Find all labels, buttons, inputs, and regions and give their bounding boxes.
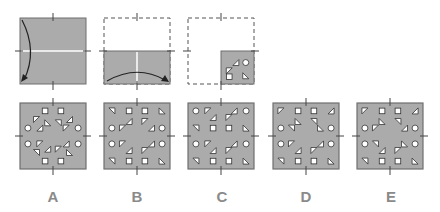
answer-option-d[interactable]	[268, 98, 344, 175]
circle-hole	[193, 141, 199, 147]
circle-hole	[412, 141, 418, 147]
circle-hole	[159, 141, 165, 147]
option-label-e[interactable]: E	[376, 188, 406, 205]
answer-option-c[interactable]	[183, 98, 259, 175]
circle-hole	[362, 125, 368, 131]
circle-hole	[159, 125, 165, 131]
circle-hole	[362, 141, 368, 147]
circle-hole	[109, 141, 115, 147]
square-hole	[126, 108, 132, 114]
circle-hole	[278, 125, 284, 131]
square-hole	[295, 108, 301, 114]
circle-hole	[75, 125, 81, 131]
step-2-fold-vertical	[99, 13, 175, 90]
square-hole	[311, 108, 317, 114]
circle-hole	[278, 141, 284, 147]
circle-hole	[25, 125, 31, 131]
answer-option-b[interactable]	[99, 98, 175, 175]
square-hole	[58, 108, 64, 114]
answer-option-a[interactable]	[15, 98, 91, 175]
square-hole	[210, 125, 216, 131]
option-label-d[interactable]: D	[291, 188, 321, 205]
circle-hole	[243, 60, 249, 66]
circle-hole	[412, 125, 418, 131]
square-hole	[226, 125, 232, 131]
square-hole	[226, 74, 232, 80]
square-hole	[295, 158, 301, 164]
square-hole	[379, 108, 385, 114]
circle-hole	[193, 108, 199, 114]
square-hole	[42, 108, 48, 114]
square-hole	[142, 108, 148, 114]
square-hole	[126, 158, 132, 164]
answer-option-e[interactable]	[352, 98, 428, 175]
square-hole	[58, 158, 64, 164]
square-hole	[311, 158, 317, 164]
paper-folding-diagram	[0, 0, 440, 212]
option-label-a[interactable]: A	[38, 188, 68, 205]
square-hole	[395, 108, 401, 114]
circle-hole	[328, 141, 334, 147]
square-hole	[142, 158, 148, 164]
circle-hole	[75, 141, 81, 147]
step-3-punched-quarter	[183, 13, 259, 90]
circle-hole	[243, 108, 249, 114]
option-label-c[interactable]: C	[207, 188, 237, 205]
option-label-b[interactable]: B	[122, 188, 152, 205]
square-hole	[210, 158, 216, 164]
square-hole	[42, 158, 48, 164]
circle-hole	[243, 141, 249, 147]
step-1-fold-horizontal	[15, 13, 91, 90]
circle-hole	[25, 141, 31, 147]
circle-hole	[328, 125, 334, 131]
square-hole	[226, 158, 232, 164]
circle-hole	[109, 125, 115, 131]
paper-square	[20, 103, 86, 169]
square-hole	[379, 158, 385, 164]
square-hole	[395, 158, 401, 164]
